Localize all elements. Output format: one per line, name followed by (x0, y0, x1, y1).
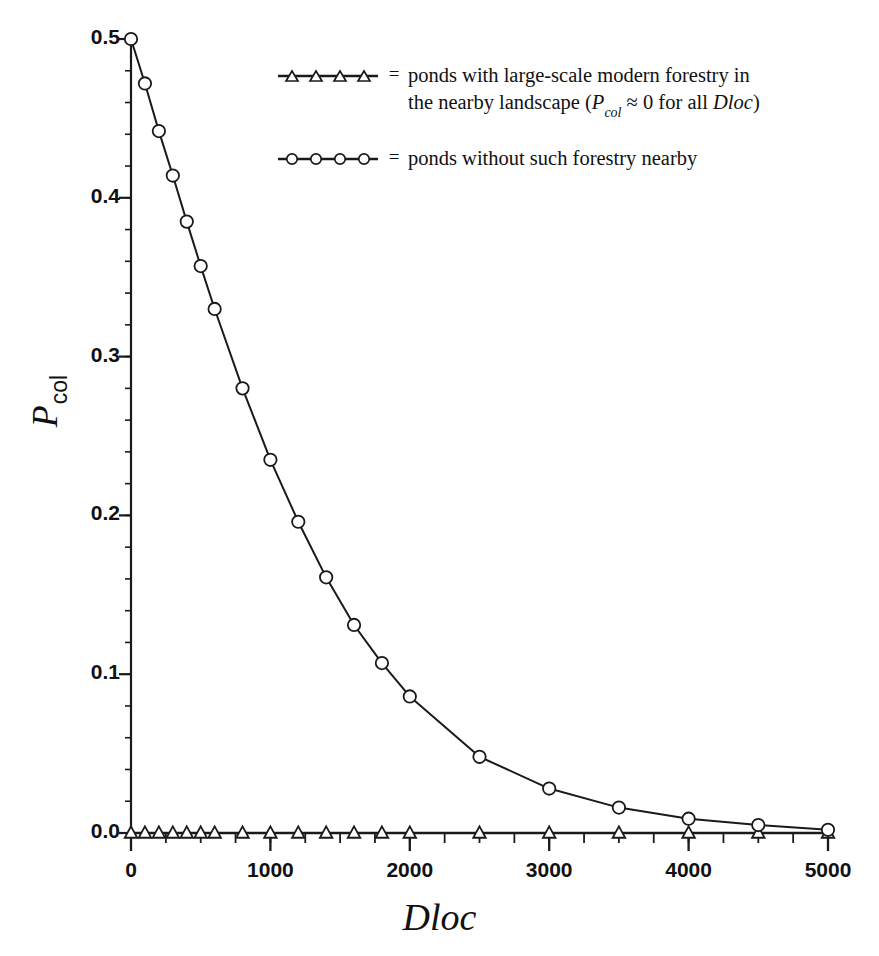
legend-label-forestry-line1: ponds with large-scale modern forestry i… (408, 64, 750, 86)
data-point-circle (208, 303, 220, 315)
data-point-circle (613, 801, 625, 813)
legend-key-triangle-icon (276, 62, 380, 89)
legend-label-pcol-subscript: col (604, 105, 621, 120)
data-point-circle (139, 77, 151, 89)
y-tick-label: 0.4 (58, 184, 120, 208)
x-tick-label: 2000 (386, 858, 433, 882)
x-tick-label: 1000 (247, 858, 294, 882)
y-axis-title-symbol: P (25, 405, 65, 427)
y-tick-label: 0.2 (58, 501, 120, 525)
y-tick-label: 0.5 (58, 25, 120, 49)
data-point-circle (543, 782, 555, 794)
data-point-circle (348, 619, 360, 631)
y-axis-title-subscript: col (47, 375, 73, 404)
chart-series-triangle (125, 826, 835, 837)
data-point-circle (264, 454, 276, 466)
legend-label-forestry-line2-pre: the nearby landscape ( (408, 91, 592, 113)
x-tick-label: 4000 (665, 858, 712, 882)
legend-label-pcol-symbol: P (592, 91, 605, 113)
legend-label-no-forestry: ponds without such forestry nearby (408, 145, 856, 172)
y-tick-label: 0.0 (58, 819, 120, 843)
y-axis-title: Pcol (24, 332, 67, 472)
figure-container: 0.00.10.20.30.40.5 010002000300040005000… (0, 0, 879, 956)
legend-equals-sign-1: = (380, 62, 408, 86)
data-point-circle (376, 657, 388, 669)
legend-equals-sign-2: = (380, 145, 408, 169)
legend-key-circle-icon (276, 145, 380, 172)
legend-label-forestry-line2-post: ) (753, 91, 760, 113)
data-point-circle (236, 382, 248, 394)
x-tick-label: 0 (125, 858, 137, 882)
data-point-circle (292, 516, 304, 528)
x-axis-title: Dloc (0, 895, 879, 939)
chart-legend: = ponds with large-scale modern forestry… (276, 62, 856, 178)
legend-label-forestry-line2-mid: ≈ 0 for all (621, 91, 713, 113)
x-tick-label: 3000 (526, 858, 573, 882)
data-point-circle (153, 125, 165, 137)
data-point-circle (167, 169, 179, 181)
legend-row-forestry: = ponds with large-scale modern forestry… (276, 62, 856, 123)
data-point-circle (404, 690, 416, 702)
y-tick-label: 0.1 (58, 660, 120, 684)
data-point-circle (752, 819, 764, 831)
data-point-circle (682, 813, 694, 825)
data-point-circle (320, 571, 332, 583)
data-point-circle (822, 824, 834, 836)
data-point-circle (125, 33, 137, 45)
y-axis-major-ticks (119, 39, 131, 833)
x-axis-tick-labels: 010002000300040005000 (0, 858, 879, 892)
legend-label-dloc-variable: Dloc (713, 91, 753, 113)
data-point-circle (181, 215, 193, 227)
legend-label-forestry: ponds with large-scale modern forestry i… (408, 62, 856, 123)
data-point-circle (473, 751, 485, 763)
legend-row-no-forestry: = ponds without such forestry nearby (276, 145, 856, 172)
data-point-circle (195, 260, 207, 272)
x-tick-label: 5000 (805, 858, 852, 882)
